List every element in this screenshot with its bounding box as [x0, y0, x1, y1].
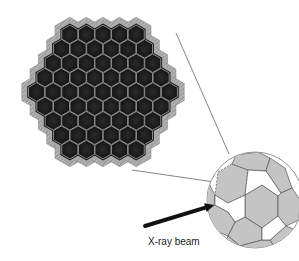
detector-cell [78, 140, 94, 159]
detector-cell [95, 140, 111, 159]
x-ray-beam-label: X-ray beam [148, 236, 200, 247]
detector-cell [62, 140, 78, 159]
diagram-canvas [0, 0, 299, 261]
detector-cell [112, 140, 128, 159]
x-ray-beam-arrow-icon [145, 203, 214, 226]
crystal-ball-sphere [205, 152, 299, 252]
detector-cell [128, 140, 144, 159]
